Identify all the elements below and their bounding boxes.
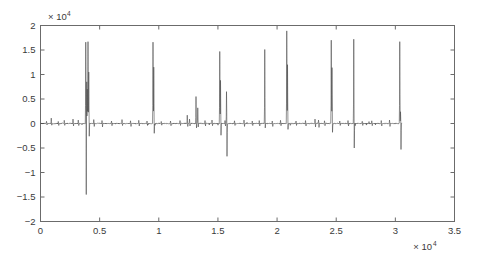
y-tick-label: −1.5: [17, 191, 36, 202]
y-tick-label: 1: [30, 69, 35, 80]
y-tick-label: −1: [25, 167, 36, 178]
x-tick-label: 2.5: [330, 225, 343, 236]
x-tick-label: 1: [156, 225, 161, 236]
x-axis-multiplier: × 10: [413, 241, 432, 252]
x-axis-multiplier-exponent: 4: [433, 240, 437, 247]
figure-background: [0, 0, 484, 273]
y-tick-label: −0.5: [17, 142, 36, 153]
x-tick-label: 1.5: [211, 225, 224, 236]
y-tick-label: −2: [25, 216, 36, 227]
x-tick-label: 0.5: [93, 225, 106, 236]
signal-plot: 00.511.522.533.5 −2−1.5−1−0.500.511.52 ×…: [0, 0, 484, 273]
y-axis-multiplier-exponent: 4: [67, 10, 71, 17]
figure-canvas: 00.511.522.533.5 −2−1.5−1−0.500.511.52 ×…: [0, 0, 484, 273]
y-tick-label: 0.5: [22, 93, 35, 104]
x-tick-label: 3.5: [448, 225, 461, 236]
y-tick-label: 1.5: [22, 44, 35, 55]
x-tick-label: 3: [393, 225, 398, 236]
y-tick-label: 0: [30, 118, 35, 129]
x-tick-label: 2: [274, 225, 279, 236]
y-axis-multiplier: × 10: [48, 11, 67, 22]
x-tick-label: 0: [38, 225, 43, 236]
y-tick-label: 2: [30, 20, 35, 31]
